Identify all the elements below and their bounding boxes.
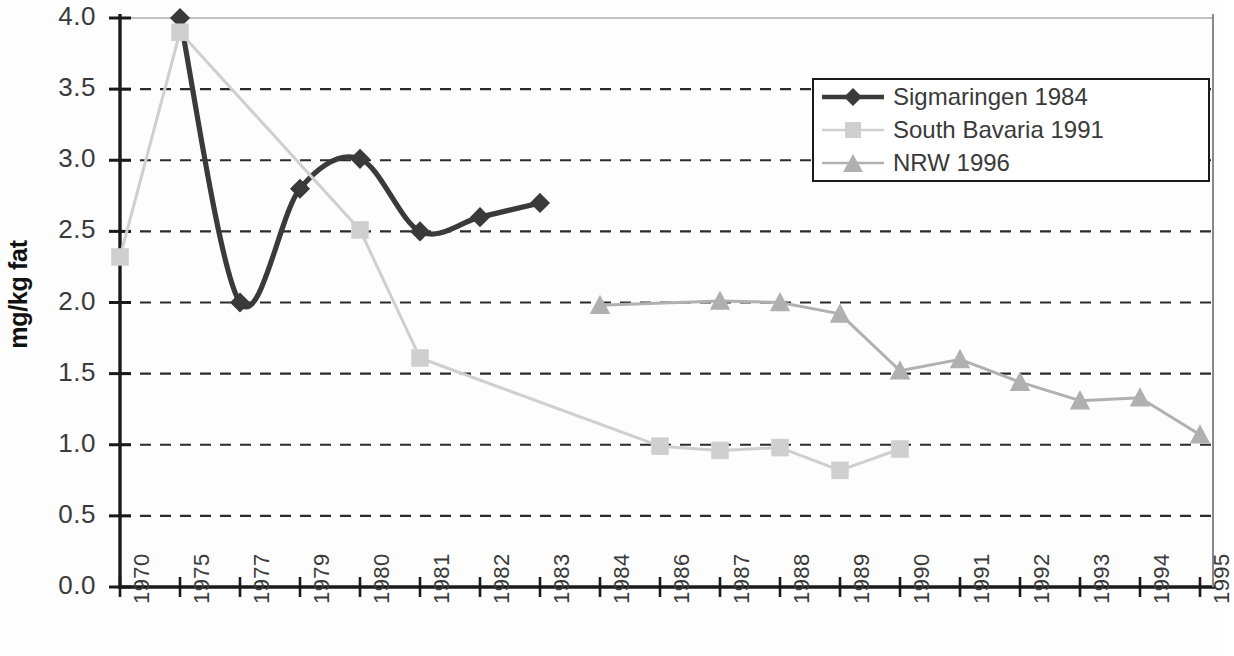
y-tick-label: 3.5 [34,72,96,103]
legend-marker-square-icon [820,117,886,143]
legend-label: NRW 1996 [893,149,1010,177]
x-tick-label: 1982 [489,553,515,604]
data-point-marker [892,441,908,457]
x-tick-label: 1995 [1209,553,1234,604]
data-point-marker [652,438,668,454]
chart-legend: Sigmaringen 1984South Bavaria 1991NRW 19… [812,78,1210,182]
data-point-marker [1011,373,1029,390]
data-point-marker [352,222,368,238]
y-axis-title: mg/kg fat [4,215,33,375]
data-point-marker [471,208,489,226]
legend-item-2[interactable]: South Bavaria 1991 [814,113,1208,146]
legend-label: South Bavaria 1991 [893,116,1104,144]
x-tick-label: 1977 [249,553,275,604]
data-point-marker [772,440,788,456]
x-tick-label: 1984 [609,553,635,604]
x-tick-label: 1986 [669,553,695,604]
legend-marker-diamond-icon [820,84,886,110]
x-tick-label: 1975 [189,553,215,604]
x-tick-label: 1981 [429,553,455,604]
legend-item-1[interactable]: Sigmaringen 1984 [814,80,1208,113]
legend-item-3[interactable]: NRW 1996 [814,146,1208,179]
x-tick-label: 1980 [369,553,395,604]
y-tick-label: 2.5 [34,214,96,245]
data-point-marker [412,350,428,366]
y-tick-label: 0.0 [34,570,96,601]
data-point-marker [1191,426,1209,443]
y-tick-label: 3.0 [34,143,96,174]
x-tick-label: 1990 [909,553,935,604]
data-point-marker [531,194,549,212]
x-tick-label: 1979 [309,553,335,604]
x-tick-label: 1970 [129,553,155,604]
x-tick-label: 1983 [549,553,575,604]
data-point-marker [832,462,848,478]
x-tick-label: 1988 [789,553,815,604]
y-tick-label: 0.5 [34,499,96,530]
data-point-marker [172,24,188,40]
y-tick-label: 1.0 [34,428,96,459]
x-tick-label: 1994 [1149,553,1175,604]
data-point-marker [112,249,128,265]
legend-label: Sigmaringen 1984 [893,83,1088,111]
legend-marker-triangle-icon [820,150,886,176]
x-tick-label: 1987 [729,553,755,604]
series-line-2 [120,32,900,470]
x-tick-label: 1993 [1089,553,1115,604]
data-point-marker [712,442,728,458]
data-point-marker [951,350,969,367]
y-tick-label: 4.0 [34,1,96,32]
x-tick-label: 1989 [849,553,875,604]
y-tick-label: 1.5 [34,357,96,388]
x-tick-label: 1991 [969,553,995,604]
x-tick-label: 1992 [1029,553,1055,604]
y-tick-label: 2.0 [34,286,96,317]
